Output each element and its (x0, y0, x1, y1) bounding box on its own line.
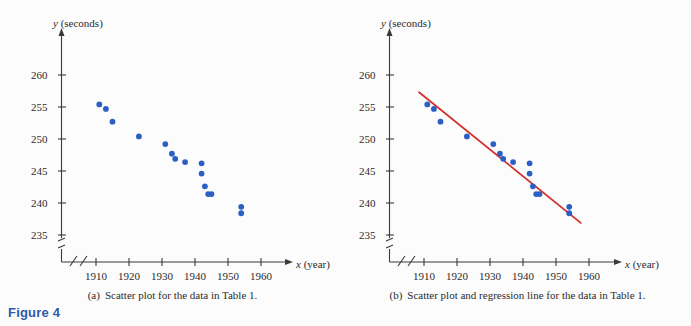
data-point (438, 119, 444, 125)
y-tick-label: 240 (31, 197, 48, 209)
y-tick-labels-a: 260 255 250 245 240 235 (31, 69, 48, 241)
caption-marker-a: (a) (88, 289, 100, 301)
caption-text-a: Scatter plot for the data in Table 1. (105, 289, 257, 301)
panel-a: y (seconds) x (year) (0, 0, 345, 326)
y-tick-label: 245 (359, 165, 376, 177)
y-axis-title-a: y (seconds) (52, 17, 103, 30)
caption-text-b: Scatter plot and regression line for the… (407, 289, 645, 301)
data-point (202, 183, 208, 189)
data-point (537, 191, 543, 197)
figure-container: y (seconds) x (year) (0, 0, 691, 326)
figure-label: Figure 4 (8, 305, 60, 320)
data-point (199, 160, 205, 166)
x-tick-label: 1910 (413, 270, 436, 282)
y-tick-label: 260 (31, 69, 48, 81)
x-tick-label: 1910 (85, 270, 108, 282)
data-point (566, 210, 572, 216)
data-point (199, 171, 205, 177)
x-axis-title-a: x (year) (295, 258, 330, 271)
data-point (530, 183, 536, 189)
y-tick-label: 260 (359, 69, 376, 81)
y-tick-label: 250 (359, 133, 376, 145)
data-point (490, 141, 496, 147)
y-tick-labels-b: 260 255 250 245 240 235 (359, 69, 376, 241)
data-point (209, 191, 215, 197)
x-tick-label: 1940 (184, 270, 207, 282)
data-point (464, 134, 470, 140)
data-point (238, 210, 244, 216)
data-point (497, 151, 503, 157)
x-tick-label: 1920 (118, 270, 141, 282)
x-tick-label: 1920 (446, 270, 469, 282)
x-tick-labels-b: 1910 1920 1930 1940 1950 1960 (413, 270, 601, 282)
data-point (527, 171, 533, 177)
y-tick-label: 250 (31, 133, 48, 145)
axes-a (58, 28, 293, 266)
y-axis-title-b: y (seconds) (380, 17, 431, 30)
panel-b: y (seconds) x (year) 260 (345, 0, 690, 326)
x-tick-label: 1950 (217, 270, 240, 282)
regression-line (419, 92, 581, 223)
x-tick-label: 1960 (578, 270, 601, 282)
x-tick-labels-a: 1910 1920 1930 1940 1950 1960 (85, 270, 273, 282)
data-point (182, 159, 188, 165)
caption-b: (b)Scatter plot and regression line for … (345, 289, 690, 301)
x-axis-title-b: x (year) (624, 258, 659, 271)
y-tick-label: 240 (359, 197, 376, 209)
data-point (500, 156, 506, 162)
caption-marker-b: (b) (389, 289, 402, 301)
y-tick-label: 255 (31, 101, 48, 113)
x-tick-label: 1960 (250, 270, 273, 282)
y-tick-label: 255 (359, 101, 376, 113)
data-points-a (96, 102, 244, 217)
data-point (162, 141, 168, 147)
data-point (96, 102, 102, 108)
y-tick-label: 235 (359, 229, 376, 241)
data-point (169, 151, 175, 157)
y-tick-label: 245 (31, 165, 48, 177)
x-tick-label: 1940 (512, 270, 535, 282)
data-point (103, 106, 109, 112)
x-tick-label: 1930 (479, 270, 502, 282)
caption-a: (a)Scatter plot for the data in Table 1. (0, 289, 345, 301)
data-point (566, 204, 572, 210)
data-point (110, 119, 116, 125)
data-point (238, 204, 244, 210)
axes-b (386, 28, 622, 266)
data-point (172, 156, 178, 162)
data-point (431, 106, 437, 112)
y-tick-label: 235 (31, 229, 48, 241)
data-point (510, 159, 516, 165)
x-tick-label: 1950 (545, 270, 568, 282)
data-point (424, 102, 430, 108)
scatter-plot-a: y (seconds) x (year) (0, 0, 345, 290)
x-tick-label: 1930 (151, 270, 174, 282)
scatter-plot-b: y (seconds) x (year) 260 (345, 0, 691, 290)
data-point (527, 160, 533, 166)
data-point (136, 134, 142, 140)
